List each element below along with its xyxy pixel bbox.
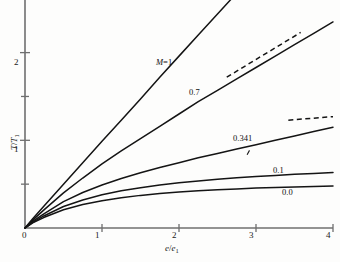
curve-label-0341: 0.341 bbox=[233, 134, 252, 143]
x-tick-label-0: 0 bbox=[22, 231, 27, 240]
curve-label-m1: M=1 bbox=[156, 58, 172, 67]
y-axis-title-den: T bbox=[9, 137, 19, 142]
curve-01 bbox=[25, 173, 333, 228]
y-axis-title-sub: 1 bbox=[13, 134, 20, 137]
x-tick-label-2: 2 bbox=[172, 231, 177, 240]
tick-mark-stray bbox=[247, 150, 249, 154]
asymptote-lower bbox=[288, 117, 333, 121]
y-axis-title-num: T bbox=[9, 145, 19, 150]
x-tick-label-3: 3 bbox=[249, 231, 254, 240]
x-axis-title: e/e1 bbox=[165, 244, 179, 254]
x-tick-label-4: 4 bbox=[326, 231, 331, 240]
x-axis-title-sub: 1 bbox=[176, 247, 179, 254]
curve-label-01: 0.1 bbox=[273, 166, 284, 175]
y-axis-title-slash: / bbox=[9, 142, 19, 145]
curve-0341 bbox=[25, 127, 333, 228]
x-tick-label-1: 1 bbox=[95, 231, 100, 240]
y-axis-title: T/T1 bbox=[10, 134, 20, 150]
curve-label-07: 0.7 bbox=[189, 88, 200, 97]
curve-M1 bbox=[25, 0, 244, 228]
curve-07 bbox=[25, 22, 333, 228]
asymptote-upper bbox=[227, 32, 301, 77]
chart-figure: 0 1 2 3 4 1 2 T/T1 e/e1 M=1 0.7 0.341 0.… bbox=[0, 0, 340, 262]
y-tick-label-2: 2 bbox=[14, 58, 19, 67]
curve-label-m1-value: =1 bbox=[163, 57, 172, 67]
plot-canvas bbox=[0, 0, 340, 262]
curve-label-00: 0.0 bbox=[282, 188, 293, 197]
